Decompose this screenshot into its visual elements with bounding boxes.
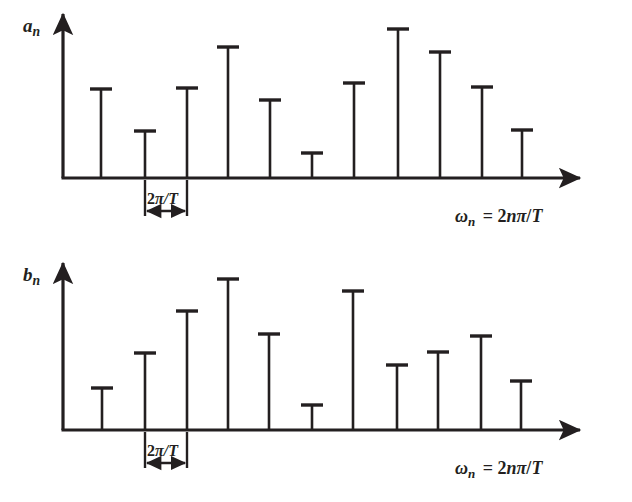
stem-panel-bn-2: [134, 353, 156, 430]
stem-panel-an-5: [259, 100, 281, 178]
x-axis-label-panel-bn: ωn = 2nπ/T: [455, 458, 543, 481]
stem-panel-an-11: [511, 130, 533, 178]
stem-panel-an-3: [176, 88, 198, 178]
stem-panel-an-2: [134, 131, 156, 178]
y-axis-label-panel-bn: bn: [23, 264, 40, 288]
x-axis-label-panel-an: ωn = 2nπ/T: [455, 206, 543, 229]
stem-panel-an-8: [387, 29, 409, 178]
stem-panel-bn-3: [176, 311, 198, 430]
stem-panel-bn-4: [217, 279, 239, 430]
stem-panel-bn-11: [510, 381, 532, 430]
spectrum-figure-svg: 2π/Tanωn = 2nπ/T2π/Tbnωn = 2nπ/T: [0, 0, 632, 502]
spacing-label-panel-an: 2π/T: [147, 190, 179, 207]
stem-panel-an-10: [471, 87, 493, 178]
y-axis-label-panel-an: an: [23, 15, 40, 39]
stem-panel-an-7: [343, 83, 365, 178]
panel-panel-bn: 2π/Tbnωn = 2nπ/T: [23, 263, 580, 481]
stem-panel-an-6: [301, 153, 323, 178]
figure-container: 2π/Tanωn = 2nπ/T2π/Tbnωn = 2nπ/T: [0, 0, 632, 502]
stem-panel-bn-1: [91, 388, 113, 430]
stem-panel-an-9: [429, 52, 451, 178]
spacing-label-panel-bn: 2π/T: [147, 442, 179, 459]
stem-panel-bn-7: [342, 291, 364, 430]
stem-panel-bn-9: [427, 352, 449, 430]
stem-panel-bn-8: [386, 365, 408, 430]
stem-panel-bn-5: [258, 334, 280, 430]
stem-panel-bn-6: [301, 405, 323, 430]
stem-group-panel-bn: [91, 279, 532, 430]
stem-panel-bn-10: [470, 336, 492, 430]
stem-panel-an-1: [90, 89, 112, 178]
panel-panel-an: 2π/Tanωn = 2nπ/T: [23, 14, 580, 229]
stem-group-panel-an: [90, 29, 533, 178]
stem-panel-an-4: [217, 47, 239, 178]
